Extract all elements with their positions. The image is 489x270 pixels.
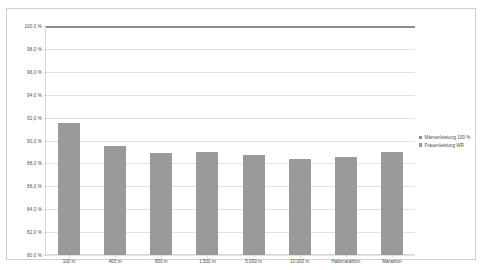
x-axis-tick-mark xyxy=(161,255,162,257)
x-axis-tick-mark xyxy=(346,255,347,257)
gridline xyxy=(46,255,415,256)
legend-item-label: Männerleistung 100 % xyxy=(425,135,471,140)
y-axis-tick-label: 98,0 % xyxy=(27,46,42,51)
bar xyxy=(196,152,218,255)
x-axis-tick-mark xyxy=(300,255,301,257)
y-axis-tick-label: 84,0 % xyxy=(27,207,42,212)
x-axis-tick-label: 400 m xyxy=(92,259,138,264)
bar-slot: 800 m xyxy=(138,26,184,255)
legend-item-label: Frauenleistung WR xyxy=(425,143,464,148)
x-axis-tick-mark xyxy=(254,255,255,257)
x-axis-tick-mark xyxy=(392,255,393,257)
y-axis-tick-label: 86,0 % xyxy=(27,184,42,189)
y-axis-tick-label: 88,0 % xyxy=(27,161,42,166)
bar-slot: Marathon xyxy=(369,26,415,255)
y-axis-tick-label: 80,0 % xyxy=(27,253,42,258)
y-axis-tick-label: 96,0 % xyxy=(27,69,42,74)
bar-slot: 1.500 m xyxy=(184,26,230,255)
bar xyxy=(104,146,126,255)
x-axis-tick-label: 800 m xyxy=(138,259,184,264)
y-axis-tick-mark xyxy=(44,255,46,256)
x-axis-tick-label: 5.000 m xyxy=(231,259,277,264)
x-axis-tick-mark xyxy=(115,255,116,257)
bar xyxy=(289,159,311,255)
x-axis-tick-mark xyxy=(207,255,208,257)
chart-frame: 100,0 %98,0 %96,0 %94,0 %92,0 %90,0 %88,… xyxy=(6,8,476,260)
bar xyxy=(150,153,172,255)
x-axis-tick-label: 10.000 m xyxy=(277,259,323,264)
bar-slot: 10.000 m xyxy=(277,26,323,255)
y-axis-tick-label: 94,0 % xyxy=(27,92,42,97)
legend: Männerleistung 100 %Frauenleistung WR xyxy=(419,135,470,150)
bar-slot: 5.000 m xyxy=(231,26,277,255)
x-axis-tick-mark xyxy=(69,255,70,257)
bar xyxy=(335,157,357,255)
x-axis-tick-label: 1.500 m xyxy=(184,259,230,264)
bar xyxy=(243,155,265,255)
legend-swatch-icon xyxy=(419,136,422,139)
x-axis-tick-label: Halbmarathon xyxy=(323,259,369,264)
y-axis-tick-label: 100,0 % xyxy=(24,24,42,29)
bar xyxy=(381,152,403,255)
legend-swatch-icon xyxy=(419,143,422,146)
y-axis-tick-label: 92,0 % xyxy=(27,115,42,120)
bar-slot: 100 m xyxy=(46,26,92,255)
bar xyxy=(58,123,80,255)
legend-item[interactable]: Männerleistung 100 % xyxy=(419,135,470,140)
bar-slot: Halbmarathon xyxy=(323,26,369,255)
y-axis-tick-label: 82,0 % xyxy=(27,230,42,235)
y-axis-tick-label: 90,0 % xyxy=(27,138,42,143)
legend-item[interactable]: Frauenleistung WR xyxy=(419,143,470,148)
x-axis-tick-label: Marathon xyxy=(369,259,415,264)
bar-slot: 400 m xyxy=(92,26,138,255)
bar-series-frauenleistung: 100 m400 m800 m1.500 m5.000 m10.000 mHal… xyxy=(46,26,415,255)
plot-area: 100,0 %98,0 %96,0 %94,0 %92,0 %90,0 %88,… xyxy=(46,26,415,255)
x-axis-tick-label: 100 m xyxy=(46,259,92,264)
